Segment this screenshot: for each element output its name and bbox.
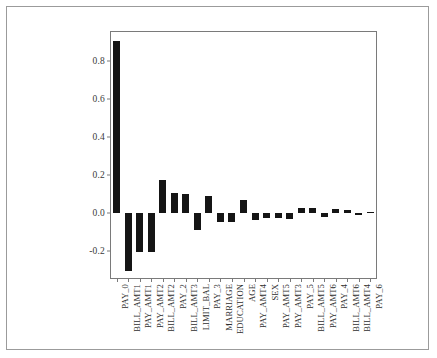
y-axis-tick-label: 0.0 (93, 208, 111, 218)
x-axis-tick-label: SEX (270, 284, 280, 301)
plot-area: -0.20.00.20.40.60.8PAY_0BILL_AMT1PAY_AMT… (111, 32, 376, 278)
figure-canvas: -0.20.00.20.40.60.8PAY_0BILL_AMT1PAY_AMT… (0, 0, 437, 358)
x-axis-tick-mark (336, 278, 337, 282)
x-axis-tick-label: MARRIAGE (224, 284, 234, 331)
bar (309, 208, 316, 213)
y-axis-tick-label: 0.2 (93, 170, 111, 180)
x-axis-tick-label: PAY_AMT4 (258, 284, 268, 328)
x-axis-tick-mark (255, 278, 256, 282)
bar (332, 209, 339, 213)
x-axis-tick-label: PAY_AMT2 (155, 284, 165, 328)
bar (148, 213, 155, 252)
x-axis-tick-mark (140, 278, 141, 282)
y-axis-tick-label: -0.2 (89, 246, 111, 256)
bar (194, 213, 201, 229)
bar (136, 213, 143, 252)
x-axis-tick-label: PAY_4 (339, 284, 349, 309)
bar (367, 212, 374, 214)
bar (228, 213, 235, 222)
x-axis-tick-mark (163, 278, 164, 282)
bar (275, 213, 282, 218)
bar (113, 41, 120, 214)
y-axis-tick-label: 0.8 (93, 56, 111, 66)
bar (286, 213, 293, 219)
x-axis-tick-label: PAY_6 (374, 284, 384, 309)
x-axis-tick-mark (267, 278, 268, 282)
x-axis-tick-label: BILL_AMT1 (132, 284, 142, 332)
x-axis-tick-label: PAY_AMT6 (328, 284, 338, 328)
y-axis-tick-label: 0.6 (93, 94, 111, 104)
x-axis-tick-mark (186, 278, 187, 282)
x-axis-tick-label: PAY_3 (212, 284, 222, 309)
bar (298, 208, 305, 213)
x-axis-tick-label: LIMIT_BAL (201, 284, 211, 330)
bar (252, 213, 259, 220)
x-axis-tick-mark (290, 278, 291, 282)
x-axis-tick-mark (359, 278, 360, 282)
x-axis-tick-label: PAY_0 (120, 284, 130, 309)
bar (205, 196, 212, 214)
y-axis-tick-label: 0.4 (93, 132, 111, 142)
x-axis-tick-label: PAY_5 (305, 284, 315, 309)
bar (344, 210, 351, 214)
x-axis-tick-label: PAY_AMT5 (281, 284, 291, 328)
x-axis-tick-mark (232, 278, 233, 282)
x-axis-tick-mark (117, 278, 118, 282)
bar (125, 213, 132, 271)
bar (240, 200, 247, 213)
bar (355, 213, 362, 215)
x-axis-tick-label: AGE (247, 284, 257, 302)
plot-frame: -0.20.00.20.40.60.8PAY_0BILL_AMT1PAY_AMT… (110, 31, 377, 279)
x-axis-tick-label: PAY_2 (178, 284, 188, 309)
x-axis-tick-mark (324, 278, 325, 282)
x-axis-tick-label: BILL_AMT4 (362, 284, 372, 332)
bar (159, 180, 166, 213)
x-axis-tick-label: BILL_AMT2 (166, 284, 176, 332)
bar (321, 213, 328, 217)
x-axis-tick-label: BILL_AMT5 (316, 284, 326, 332)
bar (263, 213, 270, 218)
x-axis-tick-mark (370, 278, 371, 282)
bar (217, 213, 224, 222)
x-axis-tick-mark (220, 278, 221, 282)
x-axis-tick-label: PAY_AMT3 (293, 284, 303, 328)
x-axis-tick-mark (209, 278, 210, 282)
x-axis-tick-mark (244, 278, 245, 282)
x-axis-tick-label: BILL_AMT3 (189, 284, 199, 332)
x-axis-tick-mark (278, 278, 279, 282)
figure-border: -0.20.00.20.40.60.8PAY_0BILL_AMT1PAY_AMT… (6, 6, 429, 350)
x-axis-tick-mark (151, 278, 152, 282)
x-axis-tick-mark (128, 278, 129, 282)
x-axis-tick-mark (197, 278, 198, 282)
bar (171, 193, 178, 213)
bar (182, 194, 189, 213)
x-axis-tick-mark (301, 278, 302, 282)
x-axis-tick-mark (347, 278, 348, 282)
x-axis-tick-label: PAY_AMT1 (143, 284, 153, 328)
x-axis-tick-mark (174, 278, 175, 282)
x-axis-tick-label: EDUCATION (235, 284, 245, 334)
x-axis-tick-label: BILL_AMT6 (351, 284, 361, 332)
x-axis-tick-mark (313, 278, 314, 282)
